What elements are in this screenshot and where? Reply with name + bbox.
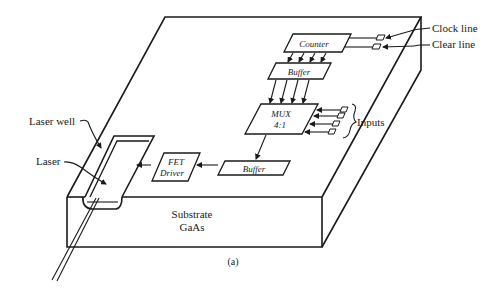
counter-block: Counter [284,34,351,52]
driver-label: Driver [159,168,184,178]
counter-label: Counter [299,39,329,49]
clock-pad [376,35,385,40]
buffer-top-block: Buffer [268,63,331,79]
input-pad-4 [328,129,336,134]
mux-to-buffer-arrow [256,135,266,159]
counter-to-buffer-arrows [288,53,326,62]
integrated-laser-chip-diagram: Counter Buffer MUX 4:1 Inputs [0,0,495,300]
fet-driver-block: FET Driver [152,153,200,181]
buffer-bottom-block: Buffer [218,161,290,175]
inputs-label: Inputs [357,116,385,128]
substrate-block [67,17,421,247]
clear-pad [372,44,381,49]
figure-caption: (a) [227,256,238,268]
mux-ratio-label: 4:1 [274,120,286,130]
fet-label: FET [167,157,185,167]
laser-label: Laser [36,155,61,167]
buffer-to-mux-arrows [270,80,309,103]
optical-fiber [52,198,99,281]
mux-label: MUX [270,109,291,119]
input-pads [328,107,348,134]
substrate-label: Substrate [172,208,213,220]
input-pad-2 [337,113,345,118]
clock-line-label: Clock line [432,22,478,34]
substrate-material-label: GaAs [179,221,204,233]
laser-well-leader [80,120,101,148]
laser-well-label: Laser well [29,115,75,127]
mux-block: MUX 4:1 [245,104,318,134]
clear-line-label: Clear line [432,38,475,50]
buffer-bottom-label: Buffer [243,164,266,174]
input-pad-3 [332,121,340,126]
clock-clear-leaders [421,28,430,45]
buffer-top-label: Buffer [288,67,311,77]
input-pad-1 [340,107,348,112]
